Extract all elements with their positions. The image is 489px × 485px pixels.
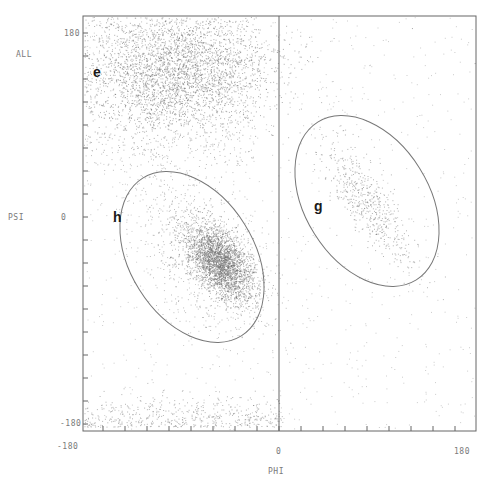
x-tick-180: 180 <box>454 447 470 456</box>
ellipse-g <box>265 89 469 312</box>
scatter-points <box>84 17 476 430</box>
region-label-e: e <box>93 64 101 80</box>
y-tick-minus180: -180 <box>60 419 81 428</box>
region-label-h: h <box>113 209 122 225</box>
x-axis-ticks <box>103 426 455 431</box>
ramachandran-plot <box>0 0 489 485</box>
x-tick-0: 0 <box>276 447 281 456</box>
x-tick-minus180: -180 <box>57 442 78 451</box>
y-tick-180: 180 <box>64 29 80 38</box>
y-tick-0: 0 <box>61 213 66 222</box>
title-label: ALL <box>16 50 32 59</box>
x-axis-label: PHI <box>268 467 284 476</box>
region-label-g: g <box>314 198 323 214</box>
y-axis-label: PSI <box>8 213 24 222</box>
